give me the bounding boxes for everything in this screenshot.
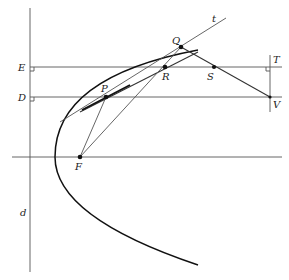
parabola-curve: [55, 50, 198, 265]
point-R: [163, 65, 168, 70]
segment-FQ: [80, 47, 181, 157]
parabola-diagram: E D P Q R S T V F d t: [0, 0, 289, 280]
label-D: D: [17, 92, 26, 103]
label-T: T: [273, 54, 281, 65]
line-t: [60, 18, 226, 122]
point-F: [78, 155, 83, 160]
label-F: F: [74, 161, 83, 172]
label-R: R: [161, 71, 170, 82]
point-V: [268, 95, 271, 98]
point-P: [104, 95, 109, 100]
point-S: [212, 65, 216, 69]
label-S: S: [207, 71, 214, 82]
right-angle-marker-D: [30, 97, 34, 101]
label-d: d: [20, 207, 26, 218]
label-t: t: [212, 13, 217, 24]
label-Q: Q: [172, 35, 180, 46]
label-P: P: [100, 83, 108, 94]
right-angle-marker-T: [266, 67, 270, 71]
label-E: E: [17, 62, 26, 73]
segment-QV: [181, 47, 270, 97]
label-V: V: [273, 99, 282, 110]
right-angle-marker-E: [30, 67, 34, 71]
tangent-at-P: [80, 52, 198, 112]
